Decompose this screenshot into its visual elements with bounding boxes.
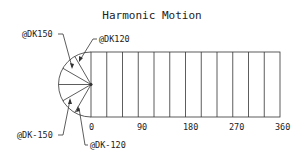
harmonic-semicircle bbox=[59, 52, 93, 117]
tick-360: 360 bbox=[275, 122, 290, 132]
tick-180: 180 bbox=[183, 122, 198, 132]
callout-dk-minus150: @DK-150 bbox=[17, 130, 53, 140]
diagram-title: Harmonic Motion bbox=[102, 9, 201, 22]
arrowheads bbox=[68, 56, 83, 112]
callout-dk-minus120: @DK-120 bbox=[90, 140, 126, 150]
tick-90: 90 bbox=[137, 122, 147, 132]
tick-270: 270 bbox=[229, 122, 244, 132]
harmonic-motion-diagram: Harmonic Motion @DK150 @ bbox=[0, 0, 305, 161]
callout-dk120: @DK120 bbox=[99, 34, 130, 44]
tick-0: 0 bbox=[89, 122, 94, 132]
callout-dk150: @DK150 bbox=[22, 29, 53, 39]
timing-grid bbox=[91, 52, 280, 117]
